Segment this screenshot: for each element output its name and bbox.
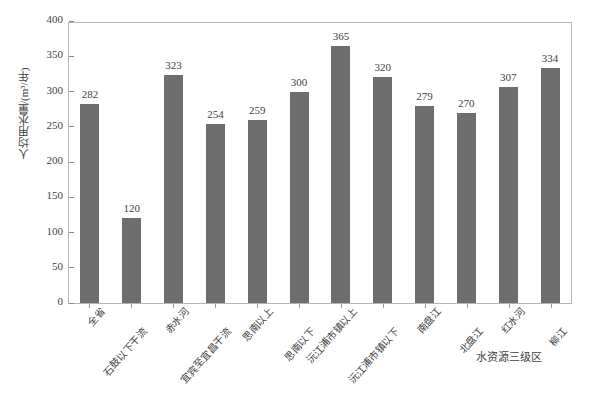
y-axis-tick-label: 0 — [58, 295, 64, 307]
y-axis-tick-label: 250 — [47, 119, 64, 131]
y-axis-tick-label: 150 — [47, 189, 64, 201]
bar-slot: 279 — [404, 23, 446, 303]
x-axis-title: 水资源三级区 — [476, 348, 542, 364]
bar-slot: 323 — [153, 23, 195, 303]
x-axis-tick-label: 南盘江 — [415, 306, 444, 336]
bar[interactable]: 279 — [415, 106, 434, 303]
bar[interactable]: 365 — [331, 46, 350, 303]
bar-slot: 334 — [529, 23, 571, 303]
bar[interactable]: 334 — [541, 68, 560, 303]
bar-value-label: 259 — [249, 104, 266, 116]
y-axis-tick-label: 400 — [47, 13, 64, 25]
bar-slot: 120 — [111, 23, 153, 303]
bar[interactable]: 323 — [164, 75, 183, 303]
bar-slot: 282 — [69, 23, 111, 303]
bar[interactable]: 270 — [457, 113, 476, 303]
chart-figure: 人均用水量/(m³/年) 050100150200250300350400 28… — [0, 0, 596, 395]
bar-value-label: 334 — [542, 52, 559, 64]
x-axis-tick-label: 红水河 — [499, 306, 528, 336]
x-axis-tick-label: 柳江 — [548, 326, 570, 349]
bar-value-label: 320 — [374, 61, 391, 73]
x-axis-tick-label: 沅江浦市镇以下 — [346, 326, 402, 386]
bar-series: 282120323254259300365320279270307334 — [69, 23, 571, 303]
bar-value-label: 282 — [82, 88, 99, 100]
y-axis-tick-mark — [69, 21, 74, 22]
bar-value-label: 254 — [207, 108, 224, 120]
bar[interactable]: 282 — [80, 104, 99, 303]
bar[interactable]: 307 — [499, 87, 518, 303]
bar[interactable]: 259 — [248, 120, 267, 303]
bar-slot: 307 — [487, 23, 529, 303]
x-axis-tick-label: 思南以上 — [240, 306, 276, 344]
bar-slot: 365 — [320, 23, 362, 303]
y-axis-title: 人均用水量/(m³/年) — [14, 18, 34, 208]
bar-value-label: 279 — [416, 90, 433, 102]
x-axis-tick-labels: 全省石鼓以下干流赤水河宜宾至宜昌干流思南以上思南以下沅江浦市镇以上沅江浦市镇以下… — [68, 306, 572, 376]
bar[interactable]: 300 — [290, 92, 309, 304]
bar-value-label: 120 — [123, 202, 140, 214]
bar[interactable]: 320 — [373, 77, 392, 303]
y-axis-tick-label: 100 — [47, 225, 64, 237]
bar-slot: 254 — [194, 23, 236, 303]
bar[interactable]: 254 — [206, 124, 225, 303]
bar-value-label: 365 — [333, 30, 350, 42]
y-axis-tick-label: 200 — [47, 154, 64, 166]
bar-slot: 270 — [445, 23, 487, 303]
bar-slot: 320 — [362, 23, 404, 303]
y-axis-tick-label: 300 — [47, 84, 64, 96]
bar[interactable]: 120 — [122, 218, 141, 303]
bar-value-label: 270 — [458, 97, 475, 109]
x-axis-tick-label: 赤水河 — [163, 306, 192, 336]
bar-value-label: 323 — [165, 59, 182, 71]
x-axis-tick-label: 石鼓以下干流 — [101, 326, 150, 379]
plot-area: 050100150200250300350400 282120323254259… — [68, 22, 572, 304]
bar-slot: 300 — [278, 23, 320, 303]
bar-slot: 259 — [236, 23, 278, 303]
x-axis-tick-label: 宜宾至宜昌干流 — [178, 326, 234, 386]
y-axis-tick-label: 50 — [52, 260, 63, 272]
x-axis-tick-label: 全省 — [86, 306, 108, 329]
bar-value-label: 300 — [291, 76, 308, 88]
y-axis-tick-label: 350 — [47, 48, 64, 60]
bar-value-label: 307 — [500, 71, 517, 83]
